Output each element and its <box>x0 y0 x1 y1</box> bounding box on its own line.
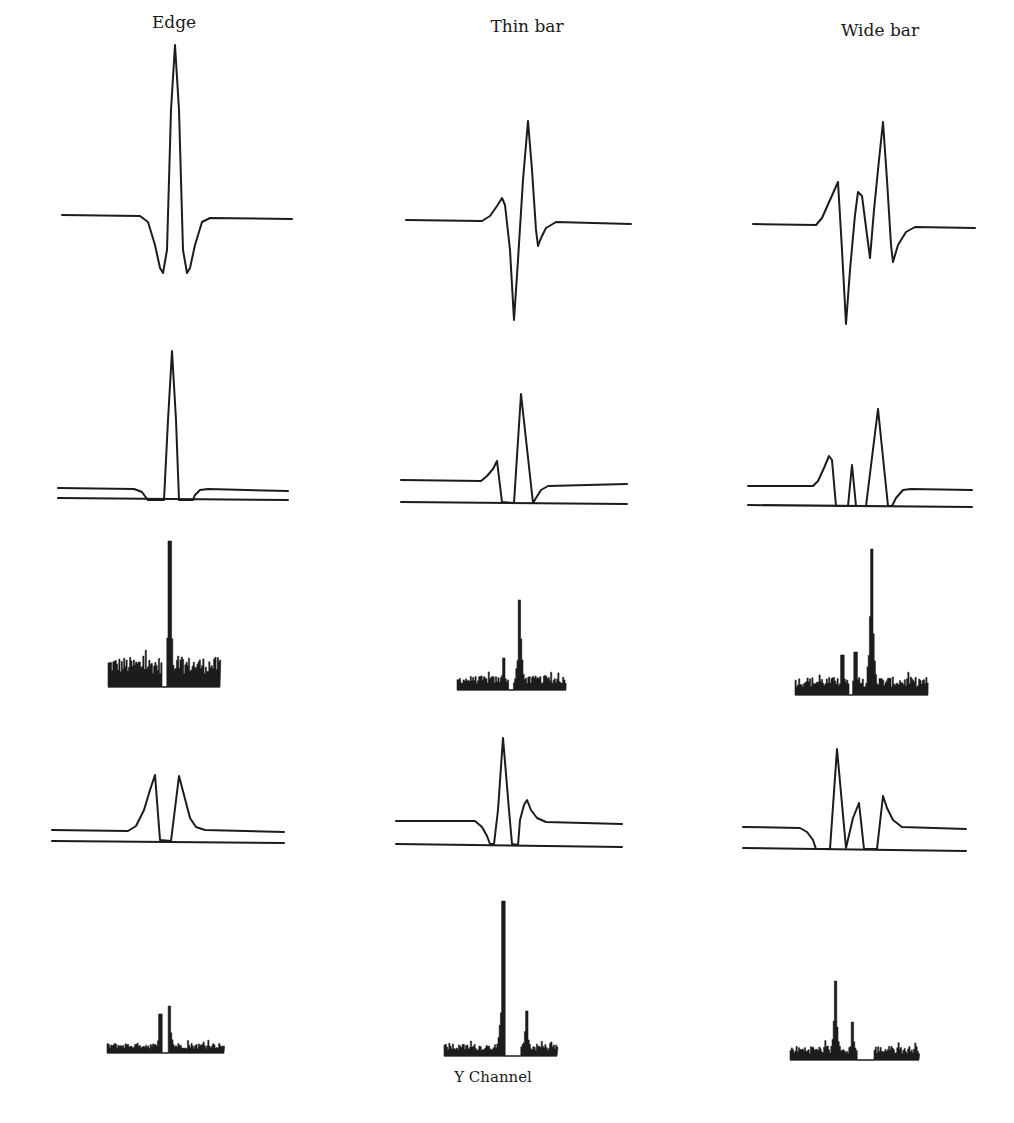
figure-caption: Y Channel <box>454 1068 532 1086</box>
plot-grid <box>0 0 1014 1123</box>
histogram-edge-row-5 <box>107 1006 225 1053</box>
figure: Edge Thin bar Wide bar Y Channel <box>0 0 1014 1123</box>
response-curve-thin-bar-row-1 <box>406 121 631 320</box>
baseline-thin-bar-row-2 <box>401 502 627 504</box>
response-curve-edge-row-4 <box>52 775 284 841</box>
response-curve-thin-bar-row-2 <box>401 394 627 503</box>
baseline-wide-bar-row-4 <box>743 848 966 851</box>
histogram-thin-bar-row-3 <box>457 600 566 690</box>
response-curve-wide-bar-row-1 <box>753 122 975 324</box>
baseline-edge-row-4 <box>52 841 284 843</box>
histogram-wide-bar-row-5 <box>790 981 920 1060</box>
response-curve-thin-bar-row-4 <box>396 738 622 845</box>
histogram-edge-row-3 <box>108 541 221 687</box>
response-curve-wide-bar-row-2 <box>748 409 972 506</box>
response-curve-edge-row-1 <box>62 45 292 273</box>
baseline-edge-row-2 <box>58 498 288 500</box>
histogram-thin-bar-row-5 <box>444 901 558 1056</box>
response-curve-wide-bar-row-4 <box>743 749 966 849</box>
baseline-thin-bar-row-4 <box>396 844 622 847</box>
histogram-wide-bar-row-3 <box>795 549 928 695</box>
baseline-wide-bar-row-2 <box>748 505 972 507</box>
response-curve-edge-row-2 <box>58 351 288 500</box>
